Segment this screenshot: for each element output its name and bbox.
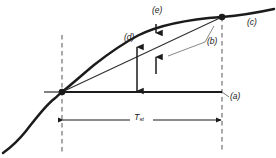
response-curve-diagram [0,0,276,158]
dimension-label-tst: Tst [134,113,144,122]
callout-label-c: (c) [247,18,257,27]
dimension-subscript: st [140,116,144,122]
response-curve-c [3,9,274,153]
chord-line-b [62,17,222,92]
lower-breakpoint-marker [59,89,66,96]
figure-container: (e) (d) (c) (b) (a) Tst [0,0,276,158]
callout-label-a: (a) [230,92,240,101]
upper-breakpoint-marker [219,14,226,21]
callout-label-b: (b) [207,37,217,46]
callout-label-e: (e) [152,6,162,15]
callout-label-d: (d) [124,33,134,42]
callout-leader-a [222,92,229,97]
